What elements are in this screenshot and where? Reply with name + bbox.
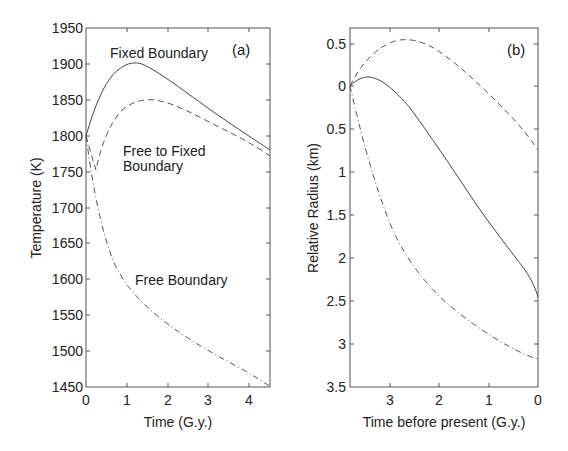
ytick-label: 1650 — [52, 235, 83, 251]
ytick-label: 1750 — [52, 164, 83, 180]
ytick-label: 1450 — [52, 379, 83, 395]
xtick-label: 0 — [534, 392, 542, 408]
xtick-label: 3 — [204, 392, 212, 408]
ytick-label: 0 — [338, 78, 346, 94]
ytick-label: 2 — [338, 250, 346, 266]
ytick-label: 1600 — [52, 271, 83, 287]
ytick-label: 0.5 — [327, 36, 347, 52]
panel-a-tag: (a) — [232, 41, 250, 58]
panel-a: 1950 1900 1850 1800 1750 1700 1650 1600 … — [28, 20, 270, 430]
ytick-label: 2.5 — [327, 293, 347, 309]
ytick-label: 1500 — [52, 343, 83, 359]
fixed-boundary-curve — [350, 77, 538, 297]
free-boundary-label: Free Boundary — [135, 272, 228, 288]
xtick-label: 4 — [245, 392, 253, 408]
free-to-fixed-label-line2: Boundary — [123, 158, 183, 174]
ytick-label: 1900 — [52, 56, 83, 72]
panel-b: 0.5 0 0.5 1 1.5 2 2.5 3 3.5 3 2 1 0 Time… — [305, 28, 542, 430]
ytick-label: 1.5 — [327, 207, 347, 223]
ytick-label: 1550 — [52, 307, 83, 323]
xtick-label: 2 — [164, 392, 172, 408]
panel-a-axes-frame — [86, 28, 270, 387]
ytick-label: 1 — [338, 164, 346, 180]
fixed-boundary-label: Fixed Boundary — [110, 45, 208, 61]
ytick-label: 1950 — [52, 20, 83, 36]
xtick-label: 1 — [485, 392, 493, 408]
xtick-label: 1 — [123, 392, 131, 408]
panel-a-y-axis-label: Temperature (K) — [28, 157, 44, 258]
ytick-label: 1700 — [52, 200, 83, 216]
xtick-label: 3 — [386, 392, 394, 408]
ytick-label: 1800 — [52, 128, 83, 144]
panel-b-axes-frame — [350, 28, 538, 387]
free-to-fixed-label-line1: Free to Fixed — [123, 143, 205, 159]
ytick-label: 0.5 — [327, 121, 347, 137]
ytick-label: 3 — [338, 336, 346, 352]
figure: 1950 1900 1850 1800 1750 1700 1650 1600 … — [0, 0, 568, 451]
ytick-label: 1850 — [52, 92, 83, 108]
ytick-label: 3.5 — [327, 379, 347, 395]
free-boundary-curve — [350, 86, 538, 359]
xtick-label: 2 — [435, 392, 443, 408]
panel-b-x-axis-label: Time before present (G.y.) — [363, 414, 526, 430]
panel-a-x-axis-label: Time (G.y.) — [144, 414, 212, 430]
xtick-label: 0 — [82, 392, 90, 408]
panel-b-tag: (b) — [507, 41, 525, 58]
panel-b-y-axis-label: Relative Radius (km) — [305, 143, 321, 273]
